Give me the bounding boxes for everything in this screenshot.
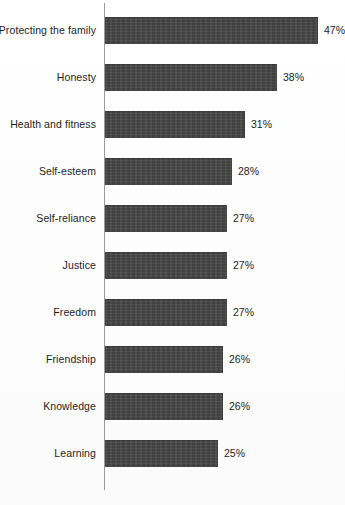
bar (105, 252, 227, 279)
bar-category-label: Freedom (53, 299, 96, 326)
bar-category-label: Protecting the family (0, 17, 96, 44)
bar-chart: Protecting the family47%Honesty38%Health… (0, 0, 345, 505)
bar-value-label: 27% (233, 299, 254, 326)
bar-value-label: 26% (229, 393, 250, 420)
bar-row: Health and fitness31% (0, 111, 345, 138)
bar-row: Self-reliance27% (0, 205, 345, 232)
bar-value-label: 27% (233, 252, 254, 279)
bar-category-label: Health and fitness (10, 111, 96, 138)
bar-value-label: 25% (224, 440, 245, 467)
bar-row: Protecting the family47% (0, 17, 345, 44)
bar (105, 299, 227, 326)
bar-row: Learning25% (0, 440, 345, 467)
bar-row: Honesty38% (0, 64, 345, 91)
bar (105, 440, 218, 467)
bar (105, 393, 223, 420)
bar (105, 111, 245, 138)
bar-value-label: 26% (229, 346, 250, 373)
bar (105, 346, 223, 373)
bar-category-label: Justice (63, 252, 96, 279)
bar (105, 64, 277, 91)
bar-value-label: 27% (233, 205, 254, 232)
bar-category-label: Self-reliance (36, 205, 96, 232)
bar-row: Freedom27% (0, 299, 345, 326)
bar-category-label: Self-esteem (39, 158, 96, 185)
bar (105, 205, 227, 232)
bar-category-label: Honesty (57, 64, 96, 91)
bar-row: Justice27% (0, 252, 345, 279)
bar-category-label: Knowledge (43, 393, 96, 420)
bar-row: Friendship26% (0, 346, 345, 373)
bar-row: Knowledge26% (0, 393, 345, 420)
bar-value-label: 28% (238, 158, 259, 185)
bar-category-label: Friendship (46, 346, 96, 373)
bar-row: Self-esteem28% (0, 158, 345, 185)
bar-value-label: 31% (251, 111, 272, 138)
bar (105, 17, 318, 44)
bar-category-label: Learning (54, 440, 96, 467)
bar-value-label: 38% (283, 64, 304, 91)
bar (105, 158, 232, 185)
bar-value-label: 47% (324, 17, 345, 44)
